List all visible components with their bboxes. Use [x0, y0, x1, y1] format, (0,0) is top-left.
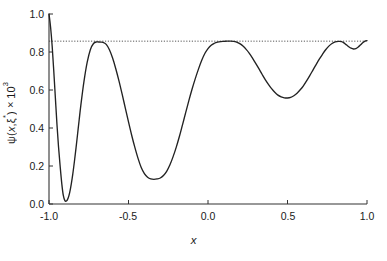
plot-area [0, 0, 387, 261]
chart-figure: ψ(x,ξ*)×103 1.0 0.8 0.6 0.4 0.2 0.0 -1.0… [0, 0, 387, 261]
data-curve [49, 14, 367, 201]
